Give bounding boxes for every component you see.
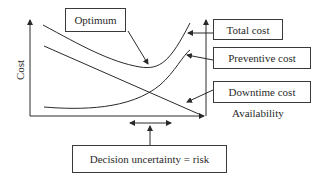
downtime-cost-arrow	[187, 90, 213, 102]
decision-uncertainty-box: Decision uncertainty = risk	[72, 145, 227, 173]
preventive-cost-curve	[44, 50, 190, 108]
optimum-label-box: Optimum	[65, 8, 126, 32]
preventive-cost-arrow	[187, 55, 213, 60]
y-axis-label: Cost	[14, 60, 26, 80]
optimum-arrow	[128, 31, 148, 64]
preventive-cost-label-box: Preventive cost	[213, 47, 311, 69]
x-axis-label: Availability	[232, 108, 284, 119]
downtime-cost-curve	[44, 46, 201, 115]
downtime-cost-label-box: Downtime cost	[213, 81, 311, 103]
total-cost-label-box: Total cost	[213, 19, 283, 40]
